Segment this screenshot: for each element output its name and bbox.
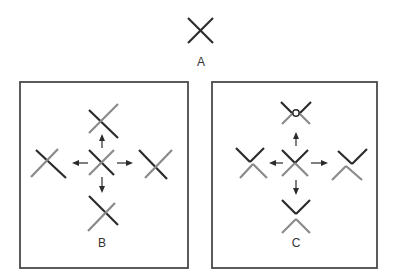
panel-b-arrow-down bbox=[99, 177, 105, 193]
panel-a-label: A bbox=[197, 56, 205, 68]
panel-c-top-crossing bbox=[281, 102, 311, 124]
panel-c-bottom-crossing bbox=[282, 200, 310, 233]
panel-b-label: B bbox=[98, 237, 106, 249]
panel-c-right-crossing bbox=[332, 149, 367, 180]
panel-c-arrow-right bbox=[311, 160, 328, 166]
panel-c-arrow-up bbox=[293, 132, 299, 146]
panel-b-left-crossing bbox=[31, 149, 66, 178]
panel-c-left-crossing bbox=[236, 148, 267, 178]
panel-a-crossing bbox=[188, 18, 213, 43]
panel-c-arrow-down bbox=[293, 180, 299, 195]
panel-c-label: C bbox=[292, 237, 301, 249]
panel-c-center-crossing bbox=[282, 150, 308, 176]
diagram-canvas bbox=[0, 0, 395, 275]
panel-b-arrow-left bbox=[72, 160, 88, 166]
panel-c-arrow-left bbox=[269, 160, 283, 166]
panel-b-bottom-crossing bbox=[88, 196, 118, 231]
panel-b-arrow-up bbox=[99, 134, 105, 148]
panel-b-arrow-right bbox=[117, 160, 133, 166]
panel-b-top-crossing bbox=[89, 104, 118, 138]
panel-b-center-crossing bbox=[89, 150, 114, 175]
panel-b-right-crossing bbox=[139, 150, 172, 179]
